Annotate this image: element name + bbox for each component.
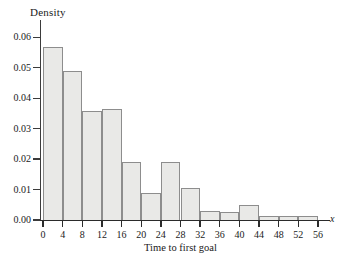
histogram-bar: [200, 211, 220, 220]
y-axis-line: [40, 20, 41, 221]
y-tick-mark: [33, 37, 40, 38]
histogram-bar: [181, 188, 201, 220]
y-tick-mark: [33, 219, 40, 220]
histogram-bar: [63, 71, 83, 220]
histogram-bar: [102, 109, 122, 220]
plot-area: [43, 22, 318, 220]
histogram-figure: Density 0.000.010.020.030.040.050.06 048…: [0, 0, 350, 264]
y-axis-title: Density: [30, 6, 66, 18]
y-tick-label: 0.06: [14, 32, 32, 42]
x-tick-mark: [199, 221, 200, 227]
y-tick-mark: [33, 98, 40, 99]
y-tick-label: 0.04: [14, 93, 32, 103]
histogram-bar: [141, 193, 161, 220]
x-tick-label: 56: [306, 229, 330, 240]
y-tick-label: 0.05: [14, 63, 32, 73]
y-tick-label: 0.02: [14, 154, 32, 164]
x-tick-mark: [82, 221, 83, 227]
x-tick-mark: [298, 221, 299, 227]
y-tick-label: 0.00: [14, 215, 32, 225]
x-axis-label: Time to first goal: [43, 242, 318, 253]
x-tick-mark: [258, 221, 259, 227]
x-tick-mark: [180, 221, 181, 227]
x-axis-variable-label: x: [330, 213, 334, 224]
x-tick-mark: [239, 221, 240, 227]
x-tick-mark: [278, 221, 279, 227]
y-tick-label: 0.01: [14, 185, 32, 195]
x-tick-mark: [141, 221, 142, 227]
x-tick-mark: [62, 221, 63, 227]
y-tick-label: 0.03: [14, 124, 32, 134]
histogram-bar: [298, 216, 318, 220]
x-tick-mark: [42, 221, 43, 227]
histogram-bar: [122, 162, 142, 220]
x-tick-mark: [317, 221, 318, 227]
histogram-bar: [239, 205, 259, 220]
x-tick-mark: [101, 221, 102, 227]
histogram-bar: [82, 111, 102, 220]
histogram-bar: [43, 47, 63, 220]
x-tick-mark: [121, 221, 122, 227]
x-tick-mark: [160, 221, 161, 227]
histogram-bar: [161, 162, 181, 220]
y-tick-mark: [33, 158, 40, 159]
x-tick-mark: [219, 221, 220, 227]
histogram-bar: [279, 216, 299, 220]
y-tick-mark: [33, 67, 40, 68]
histogram-bar: [220, 212, 240, 220]
histogram-bar: [259, 216, 279, 220]
y-tick-mark: [33, 128, 40, 129]
y-tick-mark: [33, 189, 40, 190]
